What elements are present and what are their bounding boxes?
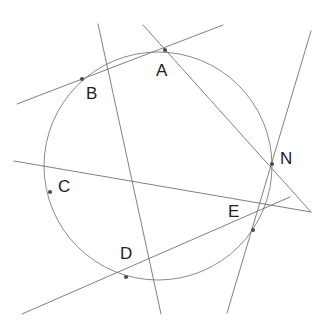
figure-canvas [0,0,328,326]
line-CD [22,197,290,314]
point-E [251,228,255,232]
point-label-C: C [58,178,70,195]
point-D [124,275,128,279]
point-N [270,162,274,166]
line-AN [143,25,311,212]
point-B [80,77,84,81]
point-C [48,190,52,194]
circumscribed-circle [44,52,272,280]
point-A [163,48,167,52]
point-label-B: B [86,85,97,102]
line-BD [98,24,161,314]
point-label-N: N [280,150,292,167]
geometry-figure: A B C D E N [0,0,328,326]
point-label-A: A [156,62,167,79]
point-label-E: E [228,203,239,220]
line-BA [17,25,223,104]
point-label-D: D [120,245,132,262]
line-EN [227,31,311,313]
